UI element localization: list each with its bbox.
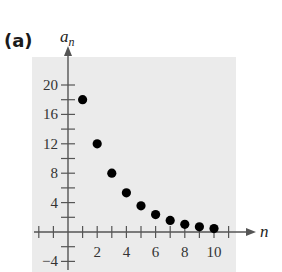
y-tick-label: 20 xyxy=(43,77,58,93)
x-tick-label: 2 xyxy=(93,244,101,260)
y-axis-label-subscript: n xyxy=(69,35,75,49)
data-point xyxy=(151,210,160,219)
y-tick-label: 4 xyxy=(51,195,59,211)
data-point xyxy=(166,216,175,225)
x-tick-label: 4 xyxy=(123,244,131,260)
y-axis-label: an xyxy=(60,27,75,49)
data-point xyxy=(93,139,102,148)
data-point xyxy=(209,224,218,233)
x-tick-label: 6 xyxy=(152,244,160,260)
plot-background xyxy=(32,57,236,272)
x-tick-label: 10 xyxy=(207,244,222,260)
data-point xyxy=(122,188,131,197)
data-point xyxy=(107,169,116,178)
y-tick-label: 12 xyxy=(43,136,58,152)
scatter-plot: 246810−448121620 nan xyxy=(0,0,282,272)
x-axis-label: n xyxy=(260,222,269,241)
x-tick-label: 8 xyxy=(181,244,189,260)
y-tick-label: 16 xyxy=(43,106,59,122)
data-point xyxy=(180,220,189,229)
y-tick-label: 8 xyxy=(51,165,59,181)
data-point xyxy=(136,201,145,210)
data-point xyxy=(78,95,87,104)
x-axis-arrow-icon xyxy=(246,228,256,236)
data-point xyxy=(195,222,204,231)
y-tick-label: −4 xyxy=(42,253,58,269)
